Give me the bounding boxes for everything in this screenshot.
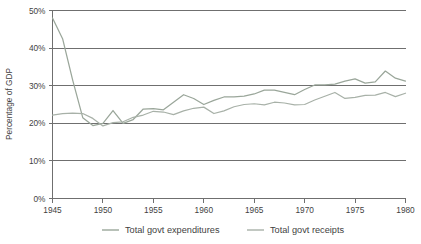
y-axis-tick-label: 50% xyxy=(29,6,46,16)
x-axis-tick-label: 1965 xyxy=(245,205,264,215)
x-axis-tick-label: 1975 xyxy=(346,205,365,215)
x-axis-tick-label: 1970 xyxy=(295,205,314,215)
y-axis-tick-label: 10% xyxy=(29,156,46,166)
x-axis-tick-label: 1955 xyxy=(144,205,163,215)
y-axis-title: Percentage of GDP xyxy=(4,68,14,140)
chart-container: 0%10%20%30%40%50% 1945195019551960196519… xyxy=(0,0,421,244)
chart-legend: Total govt expendituresTotal govt receip… xyxy=(102,225,344,235)
y-axis-tick-label: 40% xyxy=(29,43,46,53)
y-axis-tick-label: 30% xyxy=(29,81,46,91)
x-axis-tick-label: 1960 xyxy=(195,205,214,215)
x-axis-tick-label: 1980 xyxy=(396,205,415,215)
axis-lines-group xyxy=(53,11,406,199)
y-axis-tick-label: 20% xyxy=(29,118,46,128)
gridlines-group xyxy=(53,11,406,161)
y-axis-title-text: Percentage of GDP xyxy=(4,68,14,140)
data-series-group xyxy=(53,18,406,126)
legend-label-1: Total govt expenditures xyxy=(125,225,220,235)
line-chart: 0%10%20%30%40%50% 1945195019551960196519… xyxy=(0,0,421,244)
y-axis-tick-group: 0%10%20%30%40%50% xyxy=(29,6,53,204)
x-axis-tick-label: 1945 xyxy=(43,205,62,215)
y-axis-tick-label: 0% xyxy=(34,194,47,204)
legend-label-2: Total govt receipts xyxy=(270,225,344,235)
x-axis-tick-group: 19451950195519601965197019751980 xyxy=(43,199,415,215)
x-axis-tick-label: 1950 xyxy=(94,205,113,215)
